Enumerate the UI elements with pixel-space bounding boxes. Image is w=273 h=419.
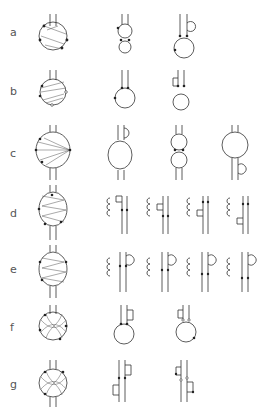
row-g-variant-2 [175,360,194,402]
row-a-variant-2 [174,14,196,58]
row-f-circle [39,305,68,340]
row-d-variants [107,196,249,234]
row-b-variant-2 [173,70,189,110]
diagram-svg [0,0,273,419]
row-b-circle [39,70,68,106]
row-b-variant-1 [114,70,135,108]
row-c-circle [35,125,72,180]
row-c-variant-2 [171,125,187,180]
row-e-variants [107,252,256,292]
row-g-variant-1 [113,360,131,402]
row-f-variant-1 [114,305,134,344]
row-a-circle [39,14,69,50]
row-d-circle [38,185,67,240]
row-e-circle [39,245,68,298]
row-a-variant-1 [117,14,132,53]
row-c-variant-1 [108,125,132,180]
row-c-variant-3 [222,125,248,180]
row-g-circle [39,360,67,407]
row-f-variant-2 [176,305,196,342]
